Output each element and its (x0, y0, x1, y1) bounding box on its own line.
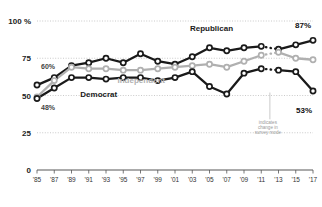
y-axis-label-50: 50 (22, 92, 31, 101)
data-point-democrat-'13 (276, 68, 281, 73)
data-point-democrat-'11 (259, 66, 264, 71)
x-axis-label-'09: '09 (240, 176, 249, 183)
x-axis-label-'15: '15 (292, 176, 301, 183)
data-point-independent-'11 (259, 53, 264, 58)
end-label-democrat: 53% (296, 106, 312, 115)
data-point-independent-'89 (69, 65, 74, 70)
y-axis-label-25: 25 (22, 129, 31, 138)
data-point-republican-'85 (34, 82, 39, 87)
data-point-democrat-'07 (224, 91, 229, 96)
data-point-republican-'91 (86, 60, 91, 65)
y-axis-label-75: 75 (22, 54, 31, 63)
x-axis-label-'03: '03 (188, 176, 197, 183)
x-axis-label-'95: '95 (119, 176, 128, 183)
data-point-independent-'95 (121, 68, 126, 73)
x-axis-label-'85: '85 (33, 176, 42, 183)
data-point-independent-'07 (224, 65, 229, 70)
data-point-independent-'01 (172, 65, 177, 70)
data-point-independent-'15 (293, 56, 298, 61)
data-point-democrat-'15 (293, 69, 298, 74)
x-axis-label-'89: '89 (67, 176, 76, 183)
series-label-democrat: Democrat (80, 90, 117, 99)
data-point-democrat-'05 (207, 84, 212, 89)
data-point-independent-'13 (276, 50, 281, 55)
x-axis-label-'07: '07 (223, 176, 232, 183)
x-axis-label-'01: '01 (171, 176, 180, 183)
data-point-republican-'93 (103, 56, 108, 61)
data-point-republican-'11 (259, 44, 264, 49)
y-axis-label-0: 0 (27, 166, 32, 175)
x-axis-label-'99: '99 (154, 176, 163, 183)
survey-mode-note-line3: survey mode (255, 130, 282, 135)
end-label-republican: 87% (295, 21, 311, 30)
start-label-democrat: 48% (41, 104, 56, 111)
data-point-independent-'87 (52, 78, 57, 83)
chart-container: 0255075100 %'85'87'89'91'93'95'97'99'01'… (0, 0, 322, 207)
series-label-republican: Republican (190, 24, 233, 33)
line-chart: 0255075100 %'85'87'89'91'93'95'97'99'01'… (0, 0, 322, 207)
series-label-independent: Independent (117, 76, 165, 85)
data-point-republican-'03 (190, 54, 195, 59)
data-point-democrat-'09 (241, 71, 246, 76)
data-point-independent-'03 (190, 63, 195, 68)
x-axis-label-'87: '87 (50, 176, 59, 183)
data-point-democrat-'85 (34, 96, 39, 101)
data-point-independent-'17 (310, 57, 315, 62)
data-point-republican-'95 (121, 60, 126, 65)
data-point-republican-'99 (155, 59, 160, 64)
x-axis-label-'17: '17 (309, 176, 318, 183)
x-axis-label-'97: '97 (136, 176, 145, 183)
data-point-republican-'05 (207, 45, 212, 50)
data-point-democrat-'87 (52, 85, 57, 90)
data-point-democrat-'89 (69, 75, 74, 80)
x-axis-label-'11: '11 (257, 176, 265, 183)
x-axis-label-'91: '91 (85, 176, 94, 183)
data-point-independent-'91 (86, 66, 91, 71)
data-point-independent-'93 (103, 66, 108, 71)
data-point-independent-'09 (241, 59, 246, 64)
x-axis-label-'93: '93 (102, 176, 111, 183)
data-point-democrat-'93 (103, 77, 108, 82)
data-point-democrat-'03 (190, 69, 195, 74)
x-axis-label-'05: '05 (205, 176, 214, 183)
data-point-republican-'07 (224, 48, 229, 53)
data-point-independent-'99 (155, 66, 160, 71)
data-point-democrat-'17 (310, 88, 315, 93)
data-point-democrat-'91 (86, 75, 91, 80)
x-axis-label-'13: '13 (274, 176, 283, 183)
data-point-democrat-'01 (172, 75, 177, 80)
data-point-independent-'05 (207, 62, 212, 67)
data-point-republican-'09 (241, 45, 246, 50)
data-point-independent-'97 (138, 68, 143, 73)
data-point-republican-'15 (293, 42, 298, 47)
data-point-republican-'17 (310, 38, 315, 43)
start-label-independent: 60% (41, 63, 56, 70)
data-point-republican-'97 (138, 51, 143, 56)
y-axis-label-100: 100 % (8, 17, 31, 26)
